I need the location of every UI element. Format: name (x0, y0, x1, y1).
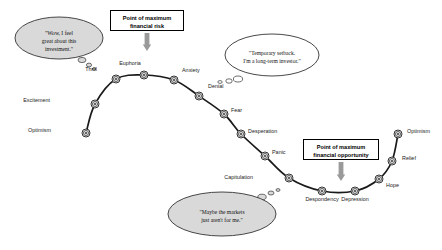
bubble-trail-dot-0 (78, 57, 86, 62)
emotion-node-depression-11 (351, 187, 359, 195)
node-center-dot (115, 78, 117, 80)
emotion-node-thrill-2 (112, 75, 120, 83)
node-center-dot (391, 160, 393, 162)
callout-line: financial risk (115, 22, 179, 30)
emotion-label-optimism-14: Optimism (407, 129, 430, 134)
emotion-label-denial-5: Denial (208, 84, 223, 89)
emotion-node-desperation-7 (237, 130, 245, 138)
emotion-node-optimism-0 (82, 129, 90, 137)
emotion-label-optimism-0: Optimism (0, 128, 51, 133)
node-center-dot (397, 133, 399, 135)
emotion-label-thrill-2: Thrill (0, 67, 97, 72)
emotion-label-capitulation-9: Capitulation (0, 175, 253, 180)
callout-line: financial opportunity (308, 151, 374, 159)
emotion-node-fear-6 (220, 110, 228, 118)
thought-bubble-line: "Temporary setback. (202, 50, 342, 58)
node-center-dot (264, 155, 266, 157)
bubble-trail-dot-0 (233, 76, 242, 82)
emotion-node-anxiety-4 (170, 76, 178, 84)
thought-bubble-line: investment." (0, 46, 129, 54)
emotion-node-denial-5 (195, 92, 203, 100)
emotion-node-despondency-10 (318, 187, 326, 195)
emotion-node-optimism-14 (394, 130, 402, 138)
thought-bubble-line: great about this (0, 38, 129, 46)
emotion-node-euphoria-3 (140, 71, 148, 79)
emotion-node-hope-12 (375, 175, 383, 183)
node-center-dot (85, 132, 87, 134)
node-center-dot (94, 103, 96, 105)
callout-line: Point of maximum (115, 14, 179, 22)
emotion-label-hope-12: Hope (386, 183, 399, 188)
thought-bubble-line: just aren't for me." (152, 217, 292, 225)
thought-bubble-text-denial-thought: "Temporary setback.I'm a long-term inves… (202, 50, 342, 66)
market-emotion-cycle-diagram: OptimismExcitementThrillEuphoriaAnxietyD… (0, 0, 442, 250)
thought-bubble-line: I'm a long-term investor." (202, 58, 342, 66)
thought-bubble-line: "Wow, I feel (0, 30, 129, 38)
emotion-node-panic-8 (261, 152, 269, 160)
thought-bubble-line: "Maybe the markets (152, 209, 292, 217)
emotion-label-relief-13: Relief (402, 156, 416, 161)
emotion-label-euphoria-3: Euphoria (90, 61, 170, 66)
emotion-label-fear-6: Fear (231, 108, 242, 113)
node-center-dot (240, 133, 242, 135)
callout-arrow-max-opportunity (337, 162, 345, 181)
callout-box-max-opportunity: Point of maximumfinancial opportunity (303, 139, 379, 160)
callout-box-max-risk: Point of maximumfinancial risk (110, 10, 184, 31)
node-center-dot (378, 178, 380, 180)
bubble-trail-dot-2 (276, 189, 280, 192)
node-center-dot (321, 190, 323, 192)
thought-bubble-text-capitulation-thought: "Maybe the marketsjust aren't for me." (152, 209, 292, 225)
node-center-dot (173, 79, 175, 81)
node-center-dot (198, 95, 200, 97)
emotion-label-anxiety-4: Anxiety (182, 68, 200, 73)
emotion-label-desperation-7: Desperation (248, 129, 277, 134)
node-center-dot (143, 74, 145, 76)
callout-arrow-max-risk (143, 33, 151, 51)
emotion-node-capitulation-9 (285, 174, 293, 182)
emotion-label-depression-11: Depression (315, 197, 395, 202)
emotion-node-excitement-1 (91, 100, 99, 108)
node-center-dot (288, 177, 290, 179)
emotion-label-panic-8: Panic (272, 150, 286, 155)
node-center-dot (354, 190, 356, 192)
emotion-node-relief-13 (388, 157, 396, 165)
node-center-dot (223, 113, 225, 115)
emotion-label-excitement-1: Excitement (0, 98, 50, 103)
bubble-trail-dot-1 (268, 191, 274, 195)
callout-line: Point of maximum (308, 143, 374, 151)
bubble-trail-dot-1 (226, 79, 232, 83)
thought-bubble-text-euphoria-thought: "Wow, I feelgreat about thisinvestment." (0, 30, 129, 54)
